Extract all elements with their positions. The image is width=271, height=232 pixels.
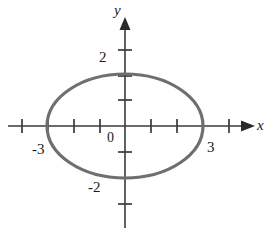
y-axis-label: y: [114, 3, 121, 18]
x-axis-label: x: [257, 118, 264, 133]
y-tick-label-minus-2: -2: [88, 180, 101, 195]
x-tick-label-minus-3: -3: [32, 142, 45, 157]
graph-figure: y x 0 2 -2 3 -3: [0, 0, 271, 232]
plot-canvas: [0, 0, 271, 232]
origin-label: 0: [107, 131, 114, 145]
x-tick-label-3: 3: [207, 140, 215, 155]
x-axis: [8, 121, 255, 132]
y-axis: [120, 17, 131, 228]
y-tick-label-2: 2: [99, 50, 107, 65]
